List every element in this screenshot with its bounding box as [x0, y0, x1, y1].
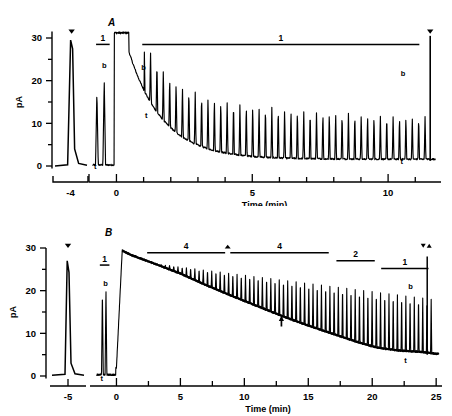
application-bar-label: 1 [278, 33, 283, 43]
y-axis-title: pA [14, 96, 24, 108]
x-tick-label: 5 [250, 187, 256, 198]
current-trace [93, 32, 436, 166]
y-tick-label: 0 [31, 370, 36, 381]
marker-label-b: b [401, 69, 406, 78]
panel-b-y-axis: 0102030pA [8, 242, 46, 381]
application-bar-label: 4 [184, 241, 189, 251]
application-bar-label: 1 [102, 254, 107, 264]
panel-a-markers: btbtbt [68, 29, 433, 171]
panel-b-bars: 14421 [100, 241, 429, 268]
panel-b-plot: 0102030pAB-50510152025Time (min)14421btb… [0, 206, 452, 416]
figure-root: 0102030pAA-40510Time (min)11btbtbt 01020… [0, 0, 452, 416]
marker-label-b: b [141, 63, 146, 72]
triangle-up-icon [427, 244, 432, 248]
y-tick-label: 0 [37, 160, 42, 171]
y-tick-label: 10 [25, 328, 36, 339]
panel-a: 0102030pAA-40510Time (min)11btbtbt [0, 0, 452, 206]
application-bar-label: 4 [277, 241, 282, 251]
x-axis-title: Time (min) [245, 404, 290, 414]
baseline-spike [55, 40, 87, 166]
y-tick-label: 20 [31, 75, 42, 86]
y-tick-label: 30 [25, 242, 36, 253]
marker-label-t: t [145, 111, 148, 120]
y-tick-label: 10 [31, 118, 42, 129]
panel-a-bars: 11 [96, 33, 419, 45]
x-tick-label: 20 [367, 391, 378, 402]
panel-b-trace-group [52, 250, 439, 376]
marker-label-b: b [102, 61, 107, 70]
panel-a-y-axis: 0102030pA [14, 32, 52, 172]
x-axis-break-segment [53, 176, 88, 182]
x-tick-label: 10 [383, 187, 394, 198]
panel-a-trace-group [55, 32, 435, 166]
marker-label-b: b [103, 279, 108, 288]
baseline-spike [52, 261, 84, 375]
panel-a-x-axis: -40510Time (min) [53, 174, 441, 206]
x-tick-label: 25 [431, 391, 442, 402]
y-axis-title: pA [8, 306, 18, 318]
panel-a-plot: 0102030pAA-40510Time (min)11btbtbt [0, 0, 452, 206]
triangle-down-icon [427, 29, 433, 33]
x-break-tick-label: -5 [64, 391, 73, 402]
panel-a-letter: A [107, 17, 115, 28]
marker-label-t: t [94, 162, 97, 171]
y-tick-label: 20 [25, 285, 36, 296]
x-tick-label: 0 [114, 391, 119, 402]
marker-label-t: t [101, 374, 104, 383]
x-tick-label: 0 [114, 187, 119, 198]
x-tick-label: 10 [239, 391, 250, 402]
triangle-down-icon [421, 244, 426, 248]
marker-label-t: t [404, 356, 407, 365]
triangle-up-icon [225, 245, 231, 249]
x-tick-label: 15 [303, 391, 314, 402]
panel-b-x-axis: -50510152025Time (min) [50, 378, 442, 414]
triangle-down-icon [68, 29, 74, 33]
application-bar-label: 2 [353, 249, 358, 259]
x-break-tick-label: -4 [66, 187, 75, 198]
x-tick-label: 5 [178, 391, 184, 402]
application-bar-label: 1 [100, 33, 105, 43]
marker-label-b: b [408, 282, 413, 291]
y-tick-label: 30 [31, 32, 42, 43]
panel-b: 0102030pAB-50510152025Time (min)14421btb… [0, 206, 452, 416]
application-bar-label: 1 [402, 257, 407, 267]
triangle-down-icon [65, 244, 71, 248]
panel-b-letter: B [105, 227, 112, 238]
